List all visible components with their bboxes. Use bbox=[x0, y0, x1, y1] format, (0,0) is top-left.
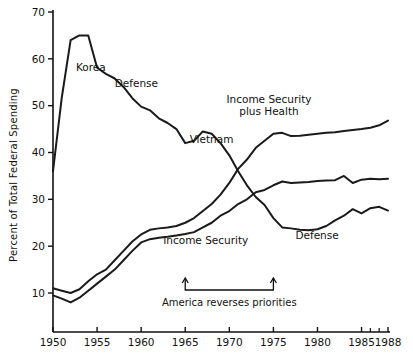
y-tick-label: 30 bbox=[32, 193, 45, 205]
x-tick-label: 1980 bbox=[304, 336, 331, 348]
series-label-income-security-plus-health: Income Security bbox=[226, 93, 311, 105]
y-tick-label: 40 bbox=[32, 146, 45, 158]
x-tick-label: 1965 bbox=[172, 336, 199, 348]
x-tick-label: 1985 bbox=[348, 336, 375, 348]
chart-svg: Percent of Total Federal Spending 102030… bbox=[0, 0, 413, 364]
series-label-income-security-plus-health: plus Health bbox=[239, 105, 299, 117]
series-label-defense-upper: Defense bbox=[115, 77, 158, 89]
x-tick-label: 1960 bbox=[128, 336, 155, 348]
series-labels: KoreaDefenseVietnamIncome Securityplus H… bbox=[76, 61, 339, 246]
series-label-income-security: Income Security bbox=[163, 234, 248, 246]
x-tick-label: 1975 bbox=[260, 336, 287, 348]
series-line-income-security-plus-health bbox=[53, 121, 388, 293]
y-tick-label: 50 bbox=[32, 99, 45, 111]
y-tick-label: 70 bbox=[32, 6, 45, 18]
y-axis-title: Percent of Total Federal Spending bbox=[8, 88, 19, 262]
y-tick-label: 10 bbox=[32, 287, 45, 299]
x-tick-label: 1970 bbox=[216, 336, 243, 348]
span-annotation-label: America reverses priorities bbox=[162, 297, 297, 308]
x-tick-label: 1950 bbox=[40, 336, 67, 348]
x-tick-label: 1988 bbox=[375, 336, 402, 348]
y-tick-label: 60 bbox=[32, 53, 45, 65]
span-annotation: America reverses priorities bbox=[162, 278, 297, 308]
axes bbox=[53, 10, 390, 332]
y-tick-label: 20 bbox=[32, 240, 45, 252]
data-series bbox=[53, 35, 388, 302]
series-label-vietnam: Vietnam bbox=[190, 133, 234, 145]
x-tick-label: 1955 bbox=[84, 336, 111, 348]
chart-figure: Percent of Total Federal Spending 102030… bbox=[0, 0, 413, 364]
y-axis-title-group: Percent of Total Federal Spending bbox=[8, 88, 19, 262]
span-bracket bbox=[185, 278, 273, 290]
series-label-korea: Korea bbox=[76, 61, 106, 73]
series-label-defense-lower: Defense bbox=[295, 229, 338, 241]
